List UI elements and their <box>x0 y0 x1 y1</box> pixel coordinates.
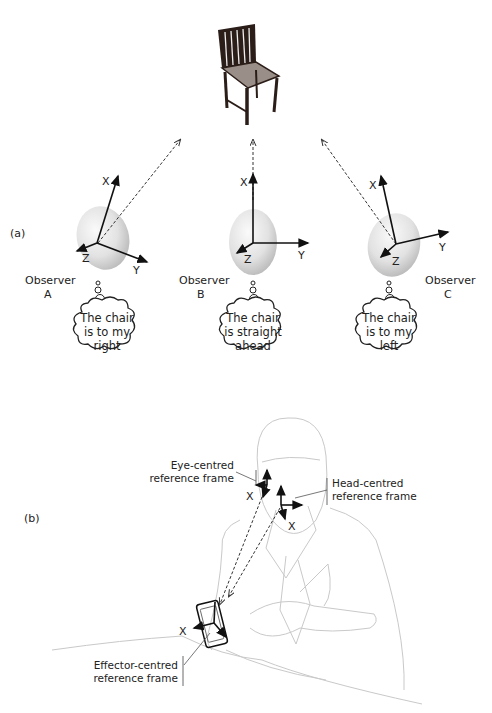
head-frame-label-2: reference frame <box>332 490 417 502</box>
head-label-leader <box>295 490 327 498</box>
panel-a-label: (a) <box>10 227 25 240</box>
effector-frame-label-2: reference frame <box>93 672 178 684</box>
effector-frame-label-1: Effector-centred <box>94 659 178 671</box>
eye-label-leader <box>236 472 256 481</box>
chair-image <box>218 24 279 125</box>
observer-c: X Y Z Observer C The chair is to my left <box>322 140 476 353</box>
head-frame: X Head-centred reference frame <box>281 477 417 533</box>
thought-a-line-1: The chair <box>79 311 134 325</box>
thought-c-line-2: is to my <box>366 325 412 339</box>
effector-axis-up <box>214 602 215 623</box>
observer-b-name: Observer <box>179 274 230 287</box>
axis-z-label-c: Z <box>392 255 400 268</box>
thought-b-line-3: ahead <box>235 339 271 353</box>
thought-bubble-dot <box>386 287 392 293</box>
axis-y-label-c: Y <box>438 241 446 254</box>
thought-b-line-1: The chair <box>225 311 280 325</box>
thought-bubble-dot <box>95 287 101 293</box>
axis-x-label-b: X <box>240 176 248 189</box>
axis-z-label-a: Z <box>82 252 90 265</box>
eye-to-hand-arrow <box>220 497 262 604</box>
eye-axis-x-label: X <box>246 490 254 503</box>
figure-canvas: (a) X Y Z Observer A The chair is to my … <box>0 0 492 713</box>
observer-b: X Y Z Observer B The chair is straight a… <box>179 140 308 353</box>
effector-label-leader <box>184 633 210 665</box>
effector-axis-x-label: X <box>179 625 187 638</box>
axis-y-label-b: Y <box>297 249 305 262</box>
thought-a-line-2: is to my <box>84 325 130 339</box>
eye-axis-x <box>263 485 267 497</box>
axis-x-label-a: X <box>102 175 110 188</box>
eye-frame: X Eye-centred reference frame <box>149 459 267 503</box>
head-axis-x-label: X <box>288 520 296 533</box>
observer-a: X Y Z Observer A The chair is to my righ… <box>25 140 180 353</box>
thought-c-line-3: left <box>380 339 399 353</box>
observer-b-id: B <box>197 288 205 301</box>
panel-b-label: (b) <box>24 512 40 525</box>
observer-a-id: A <box>44 288 52 301</box>
thought-a-line-3: right <box>93 339 121 353</box>
eye-frame-label-1: Eye-centred <box>171 459 234 471</box>
observer-c-name: Observer <box>425 274 476 287</box>
thought-c-line-1: The chair <box>361 311 416 325</box>
thought-bubble-dot <box>387 281 391 285</box>
axis-x-label-c: X <box>369 179 377 192</box>
thought-bubble-dot <box>96 281 100 285</box>
axis-z-label-b: Z <box>244 253 252 266</box>
eye-frame-label-2: reference frame <box>149 472 234 484</box>
observer-a-name: Observer <box>25 274 76 287</box>
axis-y-label-a: Y <box>132 264 140 277</box>
thought-bubble-dot <box>250 287 256 293</box>
thought-bubble-dot <box>251 281 255 285</box>
head-axis-x <box>281 505 285 519</box>
observer-c-id: C <box>444 288 452 301</box>
thought-b-line-2: is straight <box>224 325 282 339</box>
head-a <box>70 200 137 275</box>
head-frame-label-1: Head-centred <box>332 477 403 489</box>
